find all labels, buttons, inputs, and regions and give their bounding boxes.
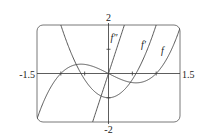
series-label-f: f — [161, 45, 165, 56]
y-tick-label-max: 2 — [106, 12, 111, 23]
x-tick-label-max: 1.5 — [182, 69, 195, 80]
series-label-f-double-prime: f″ — [111, 32, 119, 43]
chart: -1.5 1.5 2 -2 f″ f′ f — [0, 0, 205, 140]
y-tick-label-min: -2 — [104, 124, 112, 135]
series-label-f-prime: f′ — [141, 39, 147, 50]
x-tick-label-min: -1.5 — [19, 69, 35, 80]
